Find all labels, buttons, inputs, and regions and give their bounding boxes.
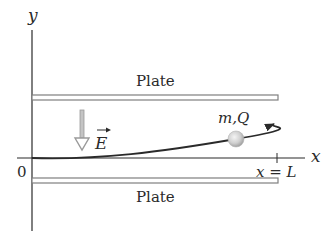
field-label: E <box>94 128 111 154</box>
y-axis-label: y <box>27 5 38 25</box>
x-axis-label: x <box>311 146 321 166</box>
bottom-plate <box>32 178 278 183</box>
bottom-plate-label: Plate <box>136 188 175 206</box>
deflection-diagram: y Plate Plate x 0 x = L E m,Q <box>0 0 331 231</box>
length-label: x = L <box>256 163 297 181</box>
top-plate <box>32 95 278 100</box>
origin-label: 0 <box>17 163 27 181</box>
svg-text:E: E <box>94 133 108 153</box>
charged-particle <box>228 131 244 147</box>
particle-label: m,Q <box>218 109 249 127</box>
field-arrow-icon <box>75 110 89 150</box>
top-plate-label: Plate <box>136 72 175 90</box>
